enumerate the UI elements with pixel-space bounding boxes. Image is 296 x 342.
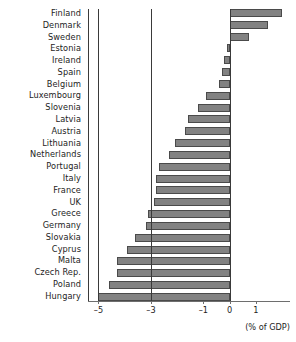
bar: [156, 186, 229, 194]
bar-row: [88, 257, 290, 265]
category-label: Czech Rep.: [34, 268, 85, 277]
category-label: Portugal: [46, 162, 85, 171]
category-label: Greece: [51, 209, 85, 218]
category-label: Ireland: [52, 56, 85, 65]
bar-row: [88, 92, 290, 100]
bar-row: [88, 56, 290, 64]
category-label: Hungary: [45, 292, 85, 301]
tick-label: –5: [94, 305, 103, 315]
bar: [117, 257, 230, 265]
category-label: Sweden: [48, 33, 85, 42]
bar: [135, 234, 229, 242]
plot-area: [88, 9, 290, 301]
bar: [148, 210, 229, 218]
bar: [117, 269, 230, 277]
bar: [230, 33, 250, 41]
bar-row: [88, 281, 290, 289]
bar: [188, 115, 230, 123]
bar-row: [88, 222, 290, 230]
reference-line: [230, 9, 231, 301]
reference-line: [151, 9, 152, 301]
bar-row: [88, 163, 290, 171]
category-label: Slovakia: [46, 233, 85, 242]
x-axis-line: [88, 301, 290, 302]
tick-label: –3: [146, 305, 155, 315]
bar-row: [88, 9, 290, 17]
bar: [198, 104, 229, 112]
bar-row: [88, 139, 290, 147]
tick-label: 0: [227, 305, 232, 315]
bar-row: [88, 104, 290, 112]
bar: [219, 80, 229, 88]
category-label: France: [53, 186, 85, 195]
bar-row: [88, 198, 290, 206]
tick-label: 1: [253, 305, 258, 315]
category-label: Slovenia: [45, 103, 85, 112]
tick-mark: [98, 301, 99, 304]
reference-line: [98, 9, 99, 301]
bar: [222, 68, 230, 76]
bar-row: [88, 68, 290, 76]
category-label: Poland: [53, 280, 85, 289]
bar-row: [88, 210, 290, 218]
bar-row: [88, 21, 290, 29]
tick-mark: [151, 301, 152, 304]
category-label: Belgium: [47, 80, 85, 89]
bars-container: [88, 9, 290, 301]
category-label: Estonia: [50, 44, 85, 53]
tick-label: –1: [199, 305, 208, 315]
category-label: Lithuania: [42, 139, 85, 148]
bar: [230, 9, 282, 17]
bar: [230, 21, 268, 29]
bar-row: [88, 44, 290, 52]
bar: [185, 127, 230, 135]
bar: [159, 163, 230, 171]
category-label: Netherlands: [30, 150, 85, 159]
bar: [127, 246, 229, 254]
bar-row: [88, 127, 290, 135]
category-label: Latvia: [55, 115, 85, 124]
government-balance-bar-chart: FinlandDenmarkSwedenEstoniaIrelandSpainB…: [0, 0, 296, 342]
category-axis-labels: FinlandDenmarkSwedenEstoniaIrelandSpainB…: [0, 9, 85, 301]
category-label: Malta: [58, 256, 85, 265]
bar: [109, 281, 230, 289]
bar: [169, 151, 229, 159]
category-label: Cyprus: [52, 245, 85, 254]
bar: [154, 198, 230, 206]
bar: [175, 139, 230, 147]
category-label: Luxembourg: [29, 91, 85, 100]
bar: [206, 92, 230, 100]
tick-mark: [203, 301, 204, 304]
bar-row: [88, 246, 290, 254]
category-label: Spain: [58, 68, 85, 77]
category-label: Germany: [43, 221, 85, 230]
bar-row: [88, 186, 290, 194]
bar: [146, 222, 230, 230]
bar-row: [88, 80, 290, 88]
tick-mark: [230, 301, 231, 304]
bar-row: [88, 269, 290, 277]
bar-row: [88, 115, 290, 123]
bar-row: [88, 33, 290, 41]
bar-row: [88, 293, 290, 301]
bar-row: [88, 151, 290, 159]
bar: [156, 175, 229, 183]
bar-row: [88, 234, 290, 242]
category-label: Finland: [51, 9, 85, 18]
category-label: Austria: [51, 127, 85, 136]
category-label: Denmark: [43, 21, 85, 30]
axis-unit-label: (% of GDP): [245, 322, 290, 332]
bar-row: [88, 175, 290, 183]
category-label: Italy: [63, 174, 85, 183]
bar: [98, 293, 229, 301]
category-label: UK: [69, 198, 85, 207]
tick-mark: [256, 301, 257, 304]
